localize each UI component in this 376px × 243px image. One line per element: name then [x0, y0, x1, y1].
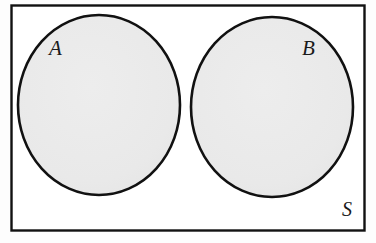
universal-set-label: S [342, 199, 352, 219]
venn-diagram-figure: A B S [0, 0, 376, 243]
set-a-label: A [49, 38, 62, 59]
set-a-circle [18, 15, 180, 195]
set-b-label: B [302, 38, 315, 59]
set-b-circle [191, 17, 353, 197]
